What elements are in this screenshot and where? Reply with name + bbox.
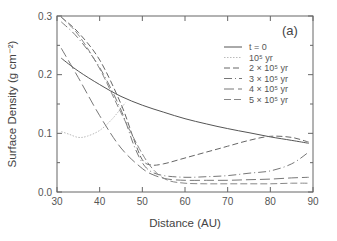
legend-label-1: 10⁵ yr: [249, 53, 273, 63]
y-tick-label: 0.3: [38, 11, 52, 22]
x-tick-label: 40: [94, 196, 106, 207]
x-tick-label: 30: [51, 196, 63, 207]
legend-label-3: 3 × 10⁵ yr: [249, 74, 288, 84]
y-tick-label: 0.0: [38, 187, 52, 198]
y-tick-label: 0.1: [38, 128, 52, 139]
x-tick-label: 70: [222, 196, 234, 207]
surface-density-chart: 304050607080900.00.10.20.3 (a) t = 010⁵ …: [0, 0, 337, 241]
panel-label: (a): [282, 23, 298, 38]
x-tick-label: 60: [179, 196, 191, 207]
legend-label-5: 5 × 10⁵ yr: [249, 95, 288, 105]
x-tick-label: 80: [265, 196, 277, 207]
legend-label-4: 4 × 10⁵ yr: [249, 84, 288, 94]
x-axis-label: Distance (AU): [149, 217, 221, 229]
legend: t = 010⁵ yr2 × 10⁵ yr3 × 10⁵ yr4 × 10⁵ y…: [224, 42, 288, 105]
legend-label-0: t = 0: [249, 42, 267, 52]
series-line-1: [61, 103, 125, 138]
x-tick-label: 50: [137, 196, 149, 207]
x-tick-label: 90: [307, 196, 319, 207]
y-tick-label: 0.2: [38, 69, 52, 80]
y-axis-label: Surface Density (g cm⁻²): [6, 40, 18, 167]
legend-label-2: 2 × 10⁵ yr: [249, 63, 288, 73]
